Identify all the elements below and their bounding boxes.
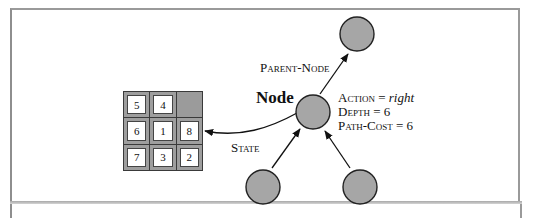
state-edge <box>205 113 297 133</box>
child-edge-right <box>325 131 350 168</box>
action-field: Action = right <box>338 90 414 105</box>
puzzle-tile: 1 <box>150 118 175 143</box>
node-graph <box>0 0 534 218</box>
action-value: right <box>389 90 414 105</box>
puzzle-tile: 2 <box>177 145 202 170</box>
puzzle-tile: 5 <box>124 92 149 117</box>
path-cost-field: Path-Cost = 6 <box>338 118 413 133</box>
parent-node-label: Parent-Node <box>260 60 329 75</box>
puzzle-tile: 3 <box>150 145 175 170</box>
parent-node-circle <box>340 17 374 51</box>
puzzle-tile: 4 <box>150 92 175 117</box>
puzzle-tile: 7 <box>124 145 149 170</box>
child-node-circle-left <box>246 170 280 204</box>
child-node-circle-right <box>343 170 377 204</box>
depth-field: Depth = 6 <box>338 104 390 119</box>
node-label: Node <box>256 88 294 108</box>
eight-puzzle-state: 5 4 6 1 8 7 3 2 <box>123 91 203 171</box>
child-edge-left <box>272 129 300 168</box>
puzzle-blank-tile <box>177 92 202 117</box>
current-node-circle <box>296 95 330 129</box>
action-name: Action <box>338 90 375 105</box>
state-label: State <box>231 140 260 155</box>
action-eq: = <box>375 90 389 105</box>
puzzle-tile: 6 <box>124 118 149 143</box>
puzzle-tile: 8 <box>177 118 202 143</box>
